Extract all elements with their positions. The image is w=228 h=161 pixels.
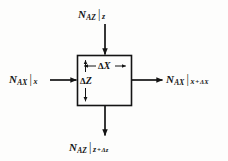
delta-x-axis: X bbox=[104, 60, 111, 71]
mass-flux-control-volume-diagram: NAZ|z NAX|x NAX|x+ΔX NAZ|z+Δz ΔX ΔZ bbox=[0, 0, 228, 161]
flux-label-left: NAX|x bbox=[9, 73, 38, 86]
flux-label-right: NAX|x+ΔX bbox=[166, 73, 209, 86]
flux-right-subscript: AX bbox=[174, 78, 184, 87]
flux-bottom-subscript: AZ bbox=[77, 146, 87, 155]
delta-z-axis: Z bbox=[86, 75, 92, 86]
dimension-label-delta-x: ΔX bbox=[98, 61, 110, 71]
dimension-label-delta-z: ΔZ bbox=[80, 76, 92, 86]
flux-bottom-symbol: N bbox=[69, 141, 77, 153]
flux-right-increment: ΔX bbox=[200, 78, 209, 85]
flux-right-symbol: N bbox=[166, 73, 174, 85]
flux-bottom-increment: Δz bbox=[102, 146, 109, 153]
flux-left-symbol: N bbox=[9, 73, 17, 85]
flux-label-bottom: NAZ|z+Δz bbox=[69, 141, 109, 154]
flux-left-subscript: AX bbox=[17, 78, 27, 87]
flux-top-subscript: AZ bbox=[86, 13, 96, 22]
flux-top-symbol: N bbox=[78, 8, 86, 20]
flux-label-top: NAZ|z bbox=[78, 8, 105, 21]
flux-left-evaluated-at: x bbox=[33, 77, 37, 86]
flux-top-evaluated-at: z bbox=[102, 12, 105, 21]
